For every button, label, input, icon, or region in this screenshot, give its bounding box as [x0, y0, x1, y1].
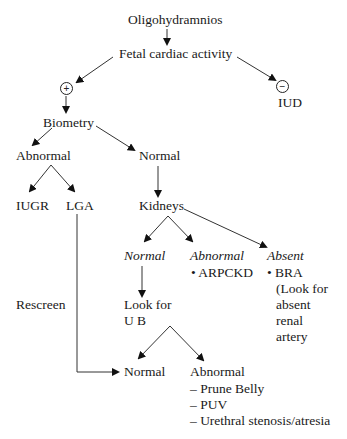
connector-lines — [0, 0, 347, 439]
node-kidney-abnormal: Abnormal — [190, 248, 244, 264]
absent-kidney-notes: • BRA (Look for absent renal artery — [267, 265, 319, 345]
node-kidney-normal: Normal — [124, 248, 165, 264]
label-rescreen: Rescreen — [16, 297, 65, 313]
minus-icon: − — [276, 80, 289, 93]
node-look-for-ub-1: Look for — [124, 297, 172, 313]
note-line: • BRA — [267, 265, 319, 281]
node-look-for-ub-2: U B — [124, 313, 146, 329]
node-iugr: IUGR — [16, 198, 49, 214]
node-oligohydramnios: Oligohydramnios — [128, 12, 223, 28]
node-lga: LGA — [66, 198, 94, 214]
node-urethral-stenosis: – Urethral stenosis/atresia — [190, 413, 330, 429]
plus-icon: + — [60, 82, 73, 95]
node-iud: IUD — [278, 95, 302, 111]
note-line: absent — [276, 297, 328, 313]
node-puv: – PUV — [190, 397, 227, 413]
node-biometry: Biometry — [43, 115, 94, 131]
note-line: renal — [276, 313, 328, 329]
node-prune-belly: – Prune Belly — [190, 381, 264, 397]
node-biometry-abnormal: Abnormal — [16, 148, 71, 164]
note-line: artery — [276, 329, 328, 345]
node-arpckd: • ARPCKD — [191, 265, 253, 281]
node-kidney-absent: Absent — [267, 248, 304, 264]
note-line: (Look for — [276, 281, 328, 297]
node-kidneys: Kidneys — [139, 198, 184, 214]
node-fetal-cardiac-activity: Fetal cardiac activity — [119, 46, 232, 62]
node-ub-normal: Normal — [124, 364, 165, 380]
node-ub-abnormal: Abnormal — [190, 364, 245, 380]
node-biometry-normal: Normal — [139, 148, 180, 164]
